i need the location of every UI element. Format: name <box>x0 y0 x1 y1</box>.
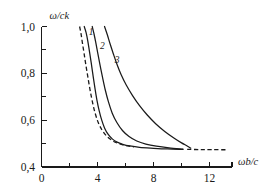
annotation-group: 123 <box>89 27 120 64</box>
axes-group: 0,40,60,81,0 04812 <box>21 21 232 185</box>
y-tick-label: 0,8 <box>21 67 36 80</box>
y-tick-label: 1,0 <box>21 21 36 34</box>
y-axis-tick-labels: 0,40,60,81,0 <box>21 21 36 175</box>
x-tick-label: 0 <box>39 172 45 184</box>
x-axis-label: ωb/c <box>238 156 259 167</box>
y-tick-label: 0,6 <box>21 114 36 127</box>
y-tick-label: 0,4 <box>21 161 36 174</box>
dispersion-plot: 0,40,60,81,0 04812 123 ω/ck ωb/c <box>0 0 275 193</box>
chart-container: 0,40,60,81,0 04812 123 ω/ck ωb/c <box>0 0 275 193</box>
y-axis-label: ω/ck <box>50 10 70 21</box>
curve-label-1: 1 <box>89 27 94 37</box>
x-tick-label: 4 <box>95 172 101 184</box>
series-curve-light-line-dashed <box>80 27 134 147</box>
series-curve-3 <box>105 27 191 149</box>
x-axis-tick-labels: 04812 <box>39 172 216 184</box>
series-curve-1 <box>84 27 183 150</box>
x-tick-label: 12 <box>204 172 216 184</box>
x-axis-ticks <box>70 162 232 167</box>
x-tick-label: 8 <box>151 172 157 184</box>
curve-label-2: 2 <box>100 41 105 51</box>
y-axis-ticks <box>42 27 48 144</box>
curve-label-3: 3 <box>114 55 120 65</box>
